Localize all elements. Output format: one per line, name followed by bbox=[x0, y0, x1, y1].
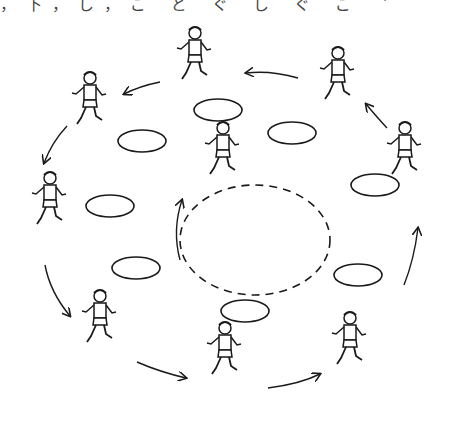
arrow-icon bbox=[366, 104, 387, 128]
running-child-figure bbox=[32, 172, 66, 224]
hoops-group bbox=[86, 99, 399, 322]
hoop-ring bbox=[86, 195, 134, 217]
running-child-figure bbox=[320, 47, 354, 99]
arrow-icon bbox=[124, 82, 160, 94]
hoop-ring bbox=[351, 174, 399, 196]
running-child-figure bbox=[177, 27, 211, 79]
arrow-icon bbox=[404, 228, 418, 285]
arrow-icon bbox=[137, 362, 186, 378]
hoop-ring bbox=[112, 257, 160, 279]
arrow-icon bbox=[45, 265, 70, 316]
arrow-icon bbox=[268, 374, 320, 388]
hoop-ring bbox=[118, 130, 166, 152]
running-child-figure bbox=[332, 312, 366, 364]
running-child-figure bbox=[82, 290, 116, 342]
running-child-figure bbox=[207, 322, 241, 374]
arrow-icon bbox=[44, 126, 67, 163]
running-child-figure bbox=[72, 72, 106, 124]
hoop-ring bbox=[221, 300, 269, 322]
running-circle-illustration bbox=[0, 0, 452, 429]
center-dashed-circle bbox=[180, 185, 330, 295]
arrow-icon bbox=[246, 72, 298, 78]
running-child-figure bbox=[205, 122, 239, 174]
hoop-ring bbox=[268, 122, 316, 144]
hoop-ring bbox=[194, 99, 242, 121]
hoop-ring bbox=[334, 264, 382, 286]
running-child-figure bbox=[387, 122, 421, 174]
